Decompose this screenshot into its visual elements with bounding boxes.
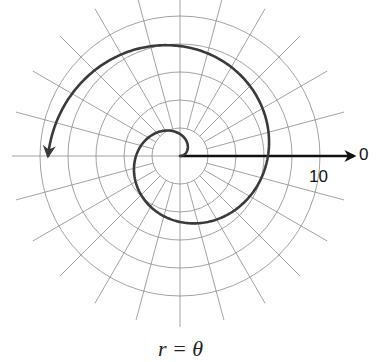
caption: r = θ bbox=[0, 336, 361, 362]
grid-radial-line bbox=[60, 176, 160, 276]
grid-radial-line bbox=[16, 112, 153, 149]
angle-zero-label: 0 bbox=[359, 145, 368, 165]
radius-ten-label: 10 bbox=[309, 167, 328, 187]
grid-radial-line bbox=[60, 36, 160, 136]
grid-radial-line bbox=[187, 0, 224, 129]
grid-radial-line bbox=[136, 0, 173, 129]
grid-radial-line bbox=[200, 176, 300, 276]
grid-radial-line bbox=[136, 183, 173, 320]
grid-radial-line bbox=[187, 183, 224, 320]
grid-radial-line bbox=[207, 112, 344, 149]
grid-radial-line bbox=[16, 163, 153, 200]
